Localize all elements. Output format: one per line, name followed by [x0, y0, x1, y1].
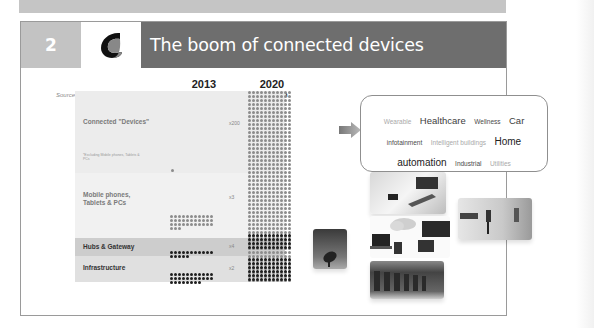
satellite-dish-icon	[313, 229, 347, 269]
device-dot	[288, 139, 291, 142]
application-tag: Industrial	[455, 160, 481, 167]
device-dot	[276, 187, 279, 190]
device-dot	[288, 278, 291, 281]
device-dot	[248, 127, 251, 130]
people-building-icon	[458, 198, 532, 240]
device-dot	[280, 238, 283, 241]
device-dot	[252, 183, 255, 186]
device-dot	[288, 251, 291, 254]
device-dot	[276, 139, 279, 142]
device-dot	[288, 95, 291, 98]
device-dot	[264, 187, 267, 190]
device-dot	[256, 139, 259, 142]
device-dot	[272, 131, 275, 134]
device-dot	[284, 171, 287, 174]
device-dot	[178, 215, 181, 218]
arrow-right-icon	[339, 122, 361, 138]
application-tag: Intelligent buildings	[431, 139, 486, 146]
application-tag: Wearable	[384, 118, 412, 125]
device-dot	[210, 277, 213, 280]
device-dot	[256, 258, 259, 261]
device-dot	[248, 242, 251, 245]
device-dot	[264, 135, 267, 138]
device-dot	[264, 219, 267, 222]
device-dot	[284, 179, 287, 182]
device-dot	[248, 223, 251, 226]
device-dot	[280, 151, 283, 154]
device-dot	[288, 115, 291, 118]
device-dot	[190, 223, 193, 226]
device-dot	[256, 274, 259, 277]
device-dot	[272, 274, 275, 277]
device-dot	[276, 99, 279, 102]
device-dot	[284, 159, 287, 162]
device-dot	[268, 238, 271, 241]
device-dot	[264, 195, 267, 198]
device-dot	[248, 103, 251, 106]
device-dot	[288, 91, 291, 94]
device-dot	[284, 167, 287, 170]
device-dot	[272, 195, 275, 198]
smart-building-image	[458, 198, 532, 240]
device-dot	[202, 219, 205, 222]
device-dot	[260, 238, 263, 241]
device-dot	[272, 111, 275, 114]
device-dot	[260, 91, 263, 94]
device-dot	[252, 211, 255, 214]
device-dot	[260, 139, 263, 142]
device-dot	[280, 234, 283, 237]
device-dot	[280, 147, 283, 150]
device-dot	[252, 171, 255, 174]
device-dot	[260, 151, 263, 154]
device-dot	[174, 251, 177, 254]
device-dot	[248, 107, 251, 110]
device-dot	[288, 191, 291, 194]
device-dot	[256, 99, 259, 102]
device-dot	[256, 262, 259, 265]
device-dot	[256, 246, 259, 249]
device-dot	[284, 155, 287, 158]
device-dot	[256, 123, 259, 126]
device-dot	[260, 219, 263, 222]
device-dot	[252, 155, 255, 158]
device-dot	[264, 151, 267, 154]
device-dot	[268, 234, 271, 237]
device-dot	[248, 99, 251, 102]
device-dot	[256, 179, 259, 182]
device-dot	[272, 107, 275, 110]
device-dot	[260, 143, 263, 146]
device-dot	[260, 274, 263, 277]
device-dot	[252, 179, 255, 182]
device-dot	[198, 273, 201, 276]
device-dot	[272, 234, 275, 237]
device-dot	[260, 195, 263, 198]
device-dot	[272, 103, 275, 106]
application-tag: Wellness	[474, 118, 500, 125]
row-multiplier: x200	[229, 120, 240, 126]
device-dot	[190, 273, 193, 276]
device-dot	[186, 251, 189, 254]
year-label: 2013	[176, 79, 232, 90]
device-dot	[256, 103, 259, 106]
device-dot	[264, 258, 267, 261]
device-dot	[252, 207, 255, 210]
device-dot	[268, 195, 271, 198]
device-dot	[288, 219, 291, 222]
device-dot	[252, 234, 255, 237]
device-dot	[268, 207, 271, 210]
device-dot	[170, 227, 173, 230]
device-dot	[252, 266, 255, 269]
device-dot	[248, 227, 251, 230]
device-dot	[260, 179, 263, 182]
application-tags: Wearable Healthcare Wellness Car infotai…	[360, 95, 548, 172]
dots-2013-mobile	[170, 215, 213, 230]
device-dot	[284, 135, 287, 138]
device-dot	[280, 211, 283, 214]
device-dot	[272, 238, 275, 241]
device-dot	[248, 211, 251, 214]
device-dot	[248, 135, 251, 138]
device-dot	[264, 238, 267, 241]
device-dot	[264, 127, 267, 130]
device-dot	[174, 223, 177, 226]
device-dot	[264, 242, 267, 245]
